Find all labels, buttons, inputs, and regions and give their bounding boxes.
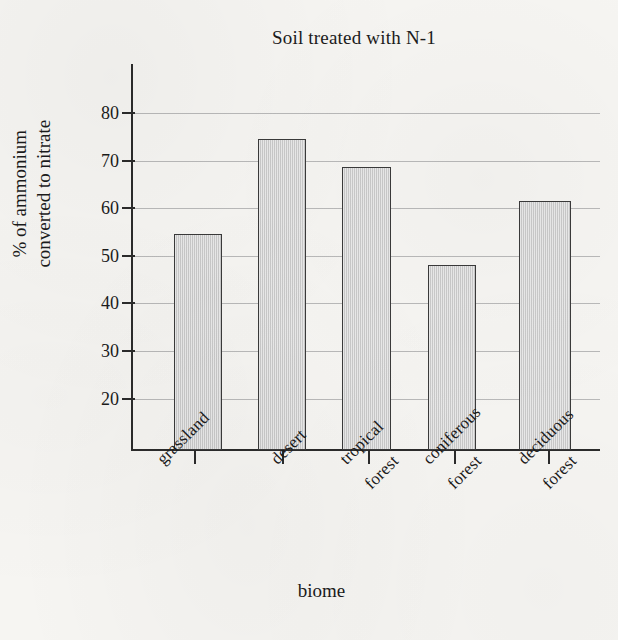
y-tick-label-50: 50 xyxy=(79,247,119,265)
y-tick-label-80: 80 xyxy=(79,104,119,122)
y-tick-50 xyxy=(122,255,135,257)
gridline-80 xyxy=(133,113,600,114)
y-axis-title-line-2: converted to nitrate xyxy=(32,44,56,344)
y-tick-40 xyxy=(122,302,135,304)
x-axis-title: biome xyxy=(0,580,618,602)
gridline-70 xyxy=(133,161,600,162)
y-axis-line xyxy=(131,64,133,451)
y-tick-80 xyxy=(122,112,135,114)
y-tick-label-70: 70 xyxy=(79,152,119,170)
plot-area: 80 70 60 50 40 30 20 xyxy=(131,64,600,451)
category-label-line: desert xyxy=(267,425,310,468)
y-tick-20 xyxy=(122,398,135,400)
y-tick-60 xyxy=(122,207,135,209)
y-tick-70 xyxy=(122,160,135,162)
y-tick-30 xyxy=(122,350,135,352)
bar-tropical-forest xyxy=(342,167,391,450)
y-tick-label-20: 20 xyxy=(79,390,119,408)
bar-desert xyxy=(258,139,306,450)
bar-chart-figure: Soil treated with N-1 80 70 60 50 40 30 … xyxy=(0,0,618,640)
category-label-line: forest xyxy=(444,451,486,493)
chart-title: Soil treated with N-1 xyxy=(0,27,618,49)
y-tick-label-40: 40 xyxy=(79,294,119,312)
y-axis-title-line-1: % of ammonium xyxy=(8,44,32,344)
y-tick-label-30: 30 xyxy=(79,342,119,360)
y-tick-label-60: 60 xyxy=(79,199,119,217)
category-label-line: forest xyxy=(539,451,581,493)
y-axis-title: % of ammonium converted to nitrate xyxy=(8,44,56,344)
